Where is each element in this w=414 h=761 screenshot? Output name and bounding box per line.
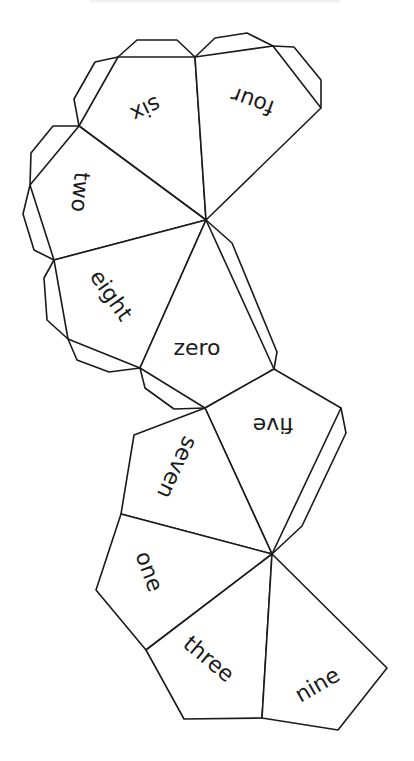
- label-two: two: [66, 171, 94, 213]
- tab-six-top: [118, 40, 195, 57]
- face-nine: [262, 554, 387, 730]
- d10-net-diagram: six four two eight zero five seven one t…: [0, 0, 414, 761]
- label-zero: zero: [173, 335, 220, 360]
- faces: [30, 46, 387, 730]
- label-five: five: [253, 413, 293, 438]
- face-four: [195, 46, 321, 220]
